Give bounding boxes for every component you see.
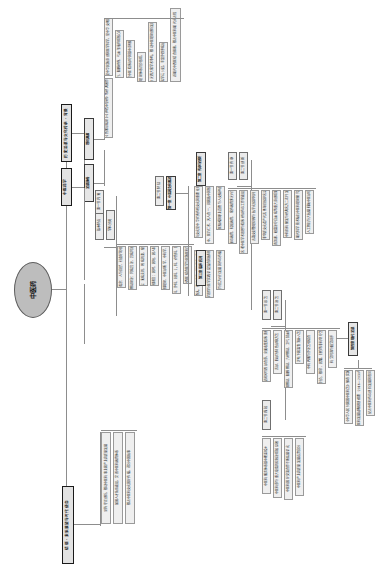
sub-node-b6c2[interactable]: 第二节 成效 xyxy=(262,400,271,430)
connector-b3 xyxy=(176,193,188,194)
connector-b1c1 xyxy=(94,139,104,140)
leaf-node[interactable]: 八纲辨证、脏腑辨证、六经辨证、卫气营血辨证 xyxy=(284,330,293,388)
branch-node-b1[interactable]: 历史沿革与文化传承 · 背景 xyxy=(61,104,72,162)
leaf-node[interactable]: 中药内服与外治法相结合 xyxy=(306,330,315,374)
sub-label: 发展脉络 xyxy=(87,177,90,189)
leaf-node[interactable]: 阴阳五行、脏腑经络、气血津液构成核心理论体系 xyxy=(115,30,124,78)
leaf-node[interactable]: 舌诊、脉诊为特色诊察方法 xyxy=(273,330,282,374)
mindmap-canvas: 中医药 历史沿革与文化传承 · 背景 理论渊源 中医药学是中华民族原创的医学科学… xyxy=(0,0,384,574)
spine-b2 xyxy=(84,188,85,280)
connector-b6-fan xyxy=(344,368,372,369)
leaf-node[interactable]: 坚持守正创新，推动中医药事业和产业高质量发展 xyxy=(101,432,111,524)
leaf-node[interactable]: 中医药参与重大疫情防控救治成效显著 xyxy=(273,438,282,498)
leaf-node[interactable]: 辨证论治：同病异治、异病同治 xyxy=(128,246,137,290)
leaf-node[interactable]: 近现代中西医结合探索，推进中医药现代化进程 xyxy=(170,8,181,82)
branch-node-b7[interactable]: 结语 · 未来展望与时代使命 xyxy=(62,486,74,564)
sub-node-b5c2[interactable]: 第二节 治法 xyxy=(273,290,282,320)
branch-node-b3[interactable]: 第一节 内涵 xyxy=(95,190,104,214)
leaf-node[interactable]: 哲学思维与医学实践深度融合的独特形态 xyxy=(205,250,214,298)
leaf-node[interactable]: 先秦两汉时期理论体系初步形成，确立整体观念 xyxy=(137,52,146,82)
leaf-node[interactable]: 金元四大家学术争鸣，推动中医理论创新发展 xyxy=(148,22,157,82)
sub-node-b4c1[interactable]: 第一节 传承 xyxy=(228,152,237,180)
leaf-node[interactable]: 汗吐下和温清消补八法 xyxy=(295,330,304,364)
connector-b4 xyxy=(237,186,251,187)
leaf-node[interactable]: 整体观念：人与自然、社会环境相统一 xyxy=(117,246,126,288)
branch-label: 中医药学 xyxy=(65,179,69,195)
leaf-node[interactable]: 三因制宜：因时、因地、因人制宜 xyxy=(150,246,159,286)
leaf-node[interactable]: 中医药产业高质量发展态势良好 xyxy=(295,438,304,496)
root-node[interactable]: 中医药 xyxy=(14,262,52,318)
sub-node-b5c1[interactable]: 第一节 诊法 xyxy=(262,290,271,320)
spine-b3-main xyxy=(84,284,85,344)
leaf-node[interactable]: 非物质文化遗产代表性项目保护名录 xyxy=(261,190,270,240)
spine-b1c2 xyxy=(104,150,105,186)
fan-connector-c xyxy=(228,188,316,189)
spine-b6 xyxy=(358,360,359,368)
leaf-node[interactable]: 中药新药研发与经典名方二次开发 xyxy=(283,190,292,238)
root-label: 中医药 xyxy=(30,281,37,299)
sub-node-b2c1b[interactable]: 学科分类 xyxy=(106,210,115,240)
sub-node-b2c1[interactable]: 基本特点 xyxy=(95,210,104,240)
branch-label: 结语 · 未来展望与时代使命 xyxy=(66,500,70,549)
branch-node-b6[interactable]: 第四章 现代发展 xyxy=(348,322,358,356)
leaf-node[interactable]: 针灸、推拿、拔罐、刮痧等非药物疗法 xyxy=(317,330,326,384)
leaf-node[interactable]: 加强人才队伍建设，完善中医药教育体系 xyxy=(113,432,123,524)
fan-connector-a xyxy=(104,18,184,19)
leaf-node[interactable]: 药食同源与膳食调养 xyxy=(328,330,337,368)
leaf-node[interactable]: 辨证论治是中医临床诊疗的基本原则和特色优势 xyxy=(126,40,135,78)
leaf-node[interactable]: 现代科学技术赋能中医药理论研究 xyxy=(294,190,303,240)
fan-connector-d xyxy=(262,328,340,329)
sub-label: 理论渊源 xyxy=(87,133,90,145)
leaf-node[interactable]: 师承教育、院校教育、家传教育多元并举 xyxy=(228,190,237,244)
leaf-node[interactable]: 推进中医药文化国际传播，讲好中国故事 xyxy=(125,432,135,524)
connector-b2c xyxy=(104,247,116,248)
trunk-line xyxy=(66,104,67,524)
leaf-node[interactable]: 名老中医学术思想与临床经验传承工作室建设 xyxy=(239,190,248,254)
branch-node-b4[interactable]: 第二章 传承与创新 xyxy=(196,152,206,186)
leaf-node[interactable]: 《中华人民共和国中医药法》颁布实施 xyxy=(344,370,353,424)
branch-node-b3-title[interactable]: 第一章 中医药文化概述 xyxy=(166,176,176,210)
branch-label: 历史沿革与文化传承 · 背景 xyxy=(65,108,69,157)
leaf-node[interactable]: 民间与官方并行发展的传承传播模式 xyxy=(216,250,225,290)
branch-label: 第四章 现代发展 xyxy=(351,328,354,351)
connector-b5 xyxy=(271,326,285,327)
leaf-node[interactable]: 古籍文献整理挖掘与数字化保护利用 xyxy=(250,190,259,244)
leaf-node[interactable]: 中医药文化是中华优秀传统文化的重要组成部分 xyxy=(194,186,203,238)
connector-b1c2 xyxy=(94,183,104,184)
spine-b3 xyxy=(188,186,189,296)
connector-b6 xyxy=(336,338,348,339)
leaf-node[interactable]: 《中医药发展战略规划纲要（2016—2030年）》 xyxy=(355,370,364,426)
leaf-node[interactable]: 人工智能与大数据辅助中医诊疗 xyxy=(305,190,314,234)
connector-b2 xyxy=(72,187,84,188)
leaf-node[interactable]: 望闻问切四诊合参，全面收集临床资料 xyxy=(262,330,271,382)
leaf-node[interactable]: 中医药学是中华民族原创的医学科学，是中华文明的杰出代表 xyxy=(104,18,113,76)
leaf-node[interactable]: 中医基础理论、中医诊断学、中药学、方剂学 xyxy=(161,246,170,290)
leaf-node[interactable]: 治未病：未病先防、既病防变、瘥后防复 xyxy=(139,246,148,286)
leaf-node[interactable]: 青蒿素、砒霜治疗白血病等重大原创成果 xyxy=(272,190,281,246)
branch-node-b5[interactable]: 第三章 临床应用 xyxy=(196,250,206,286)
sub-node-b1c2[interactable]: 发展脉络 xyxy=(84,164,94,202)
leaf-node[interactable]: 中医药服务体系基本覆盖城乡 xyxy=(262,438,271,494)
leaf-node[interactable]: 以人为本、医乃仁术、天人合一、调和致中的核心价值 xyxy=(205,186,214,244)
connector-b1 xyxy=(72,133,84,134)
fan-connector-f xyxy=(101,430,137,431)
sub-node-b1c1[interactable]: 理论渊源 xyxy=(84,118,94,160)
branch-label: 第一章 中医药文化概述 xyxy=(169,177,172,209)
leaf-node[interactable]: 促进中医药传承创新发展的意见 xyxy=(366,370,375,416)
fan-connector-b xyxy=(116,244,194,245)
leaf-node[interactable]: 中医药国际交流合作不断拓展深化 xyxy=(284,438,293,500)
leaf-node[interactable]: 明清温病学说兴起，丰富外感热病诊治体系 xyxy=(159,42,168,82)
leaf-node[interactable]: 中医内科、外科、妇科、儿科、骨伤科、针灸推拿 xyxy=(172,246,181,294)
connector-root xyxy=(52,289,66,290)
sub-node-b3c1[interactable]: 第二节 特征 xyxy=(155,176,164,206)
branch-label: 第三章 临床应用 xyxy=(199,257,202,280)
fan-connector-e xyxy=(262,436,306,437)
leaf-node[interactable]: 《黄帝内经》《伤寒杂病论》《神农本草经》等经典著作奠定理论基础 xyxy=(104,78,113,138)
branch-label: 第二章 传承与创新 xyxy=(199,156,202,182)
branch-node-b2[interactable]: 中医药学 xyxy=(61,168,72,206)
sub-node-b4c2[interactable]: 第二节 创新 xyxy=(239,152,248,180)
leaf-node[interactable]: 大医精诚的职业道德与人文精神追求 xyxy=(216,186,225,230)
